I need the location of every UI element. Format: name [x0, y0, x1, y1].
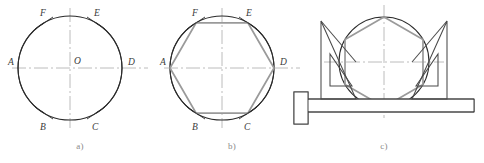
label-b: B: [40, 122, 46, 132]
right-set-square: [412, 21, 447, 99]
right-set-square-cutout: [416, 54, 438, 86]
blade-fill: [306, 100, 474, 111]
label-c: C: [92, 122, 99, 132]
label-o: O: [74, 56, 81, 66]
label-e: E: [245, 8, 252, 18]
label-f: F: [191, 8, 198, 18]
tick-c: [87, 107, 105, 119]
label-b: B: [192, 122, 198, 132]
t-square-head-front: [294, 92, 308, 124]
label-a: A: [7, 57, 14, 67]
panel-a: A B C D E F O a): [0, 0, 160, 163]
caption-c: c): [284, 141, 484, 151]
label-c: C: [244, 122, 251, 132]
label-f: F: [39, 8, 46, 18]
panel-c: c): [284, 0, 484, 163]
left-set-square: [321, 21, 356, 99]
label-a: A: [159, 57, 166, 67]
right-set-square-edge: [412, 21, 447, 62]
tick-b: [35, 107, 53, 119]
left-set-square-edge: [321, 21, 356, 62]
panel-a-drawing: A B C D E F O: [0, 0, 160, 140]
caption-a: a): [0, 141, 160, 151]
tick-e: [87, 17, 105, 29]
label-d: D: [127, 57, 135, 67]
panel-c-drawing: [284, 0, 484, 140]
left-set-square-cutout: [330, 54, 352, 86]
figure-sheet: A B C D E F O a) A B C D E: [0, 0, 484, 163]
tick-f: [35, 17, 53, 29]
label-e: E: [93, 8, 100, 18]
